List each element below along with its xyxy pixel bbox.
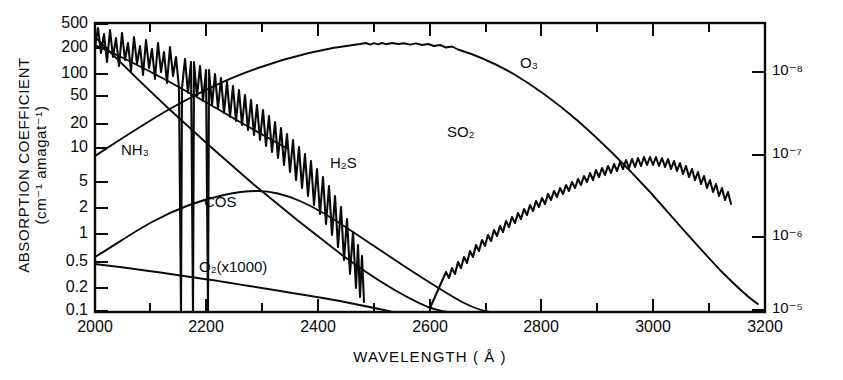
x-tick-label: 2000 [60,318,130,336]
y-tick-label-left: 5 [42,172,88,190]
y-axis-ticks-left [95,24,108,311]
curve-label-o3: O₃ [520,54,538,71]
y-tick-label-right: 10⁻⁸ [772,61,832,79]
y-tick-label-left: 20 [42,114,88,132]
x-tick-label: 3200 [730,318,800,336]
y-tick-label-left: 1 [42,224,88,242]
y-tick-label-left: 0.2 [42,278,88,296]
curve-label-o2: O₂(x1000) [199,258,267,275]
y-axis-ticks-right [752,72,765,310]
y-tick-label-left: 0.1 [42,301,88,319]
y-tick-label-right: 10⁻⁶ [772,226,832,244]
curve-label-nh3: NH₃ [121,141,149,158]
figure-root: ABSORPTION COEFFICIENT (cm⁻¹ amagat⁻¹) f… [0,0,843,380]
y-tick-label-right: 10⁻⁵ [772,299,832,317]
x-tick-label: 2800 [506,318,576,336]
x-tick-label: 2600 [395,318,465,336]
x-tick-label: 2400 [283,318,353,336]
x-tick-label: 2200 [171,318,241,336]
y-tick-label-right: 10⁻⁷ [772,144,832,162]
x-tick-label: 3000 [618,318,688,336]
y-tick-label-left: 200 [42,38,88,56]
y-tick-label-left: 50 [42,86,88,104]
curve-label-cos: COS [204,193,237,210]
x-axis-title: WAVELENGTH ( Å ) [280,348,580,365]
y-tick-label-left: 100 [42,64,88,82]
y-tick-label-left: 2 [42,198,88,216]
y-tick-label-left: 10 [42,138,88,156]
x-axis-ticks-top [150,23,709,36]
curve-label-h2s: H₂S [330,154,357,171]
y-tick-label-left: 500 [42,14,88,32]
y-tick-label-left: 0.5 [42,252,88,270]
curve-label-so2: SO₂ [447,123,475,140]
